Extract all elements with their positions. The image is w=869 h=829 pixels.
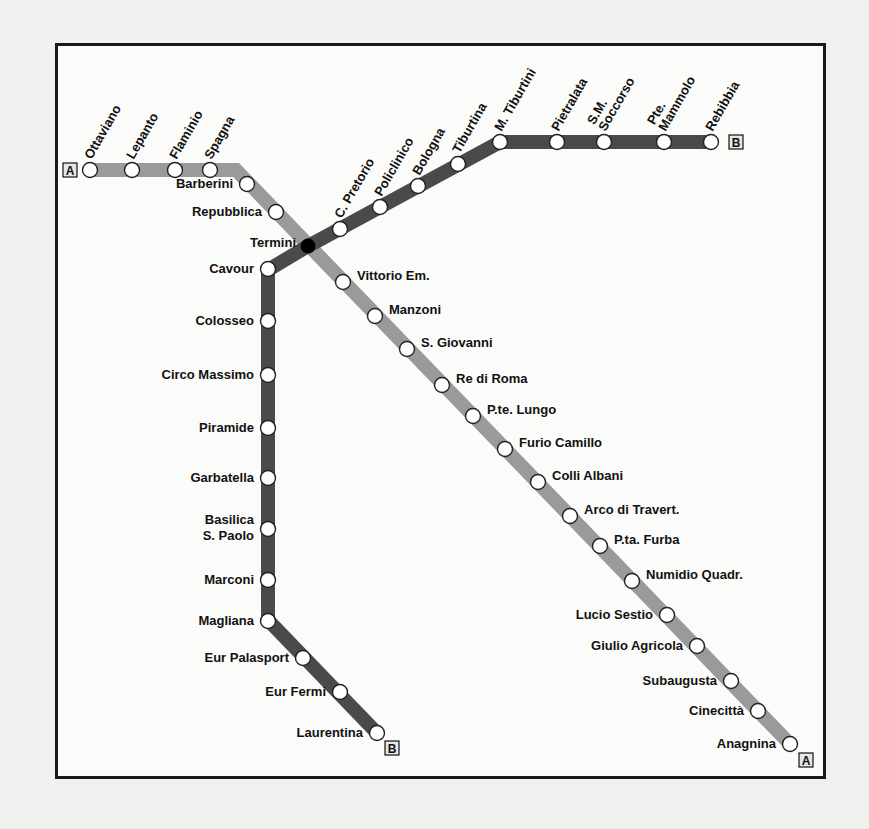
station-re-di-roma[interactable] bbox=[435, 378, 450, 393]
metro-line-a bbox=[90, 170, 790, 744]
station-lepanto[interactable] bbox=[125, 163, 140, 178]
lines-layer bbox=[90, 142, 790, 744]
station-s-giovanni[interactable] bbox=[400, 342, 415, 357]
station-basilica-s-paolo[interactable] bbox=[261, 522, 276, 537]
station-p-te-lungo[interactable] bbox=[466, 409, 481, 424]
station-label-giulio-agricola: Giulio Agricola bbox=[591, 638, 684, 653]
station-marconi[interactable] bbox=[261, 573, 276, 588]
station-label-s-m-soccorso: S.M.Soccorso bbox=[584, 68, 638, 133]
station-p-ta-furba[interactable] bbox=[593, 539, 608, 554]
svg-text:Ottaviano: Ottaviano bbox=[81, 102, 124, 161]
svg-text:B: B bbox=[732, 136, 741, 150]
station-barberini[interactable] bbox=[240, 177, 255, 192]
station-label-colli-albani: Colli Albani bbox=[552, 468, 623, 483]
station-label-laurentina: Laurentina bbox=[297, 725, 364, 740]
station-label-repubblica: Repubblica bbox=[192, 204, 263, 219]
svg-text:A: A bbox=[802, 754, 811, 768]
station-circo-massimo[interactable] bbox=[261, 368, 276, 383]
station-label-cinecitt: Cinecittà bbox=[689, 703, 745, 718]
station-pietralata[interactable] bbox=[550, 135, 565, 150]
svg-text:Pietralata: Pietralata bbox=[548, 75, 591, 134]
station-numidio-quadr[interactable] bbox=[625, 574, 640, 589]
station-label-basilica-s-paolo: Basilica bbox=[205, 512, 255, 527]
station-cinecitt[interactable] bbox=[751, 704, 766, 719]
terminus-badge-b: B bbox=[729, 135, 743, 150]
station-label-s-giovanni: S. Giovanni bbox=[421, 335, 493, 350]
station-subaugusta[interactable] bbox=[724, 674, 739, 689]
station-laurentina[interactable] bbox=[370, 726, 385, 741]
svg-text:Spagna: Spagna bbox=[201, 113, 238, 162]
station-label-vittorio-em: Vittorio Em. bbox=[357, 268, 430, 283]
station-piramide[interactable] bbox=[261, 421, 276, 436]
station-cavour[interactable] bbox=[261, 262, 276, 277]
svg-text:B: B bbox=[388, 742, 397, 756]
station-label-re-di-roma: Re di Roma bbox=[456, 371, 528, 386]
station-repubblica[interactable] bbox=[269, 205, 284, 220]
station-label-p-te-lungo: P.te. Lungo bbox=[487, 402, 556, 417]
station-label-cavour: Cavour bbox=[209, 261, 254, 276]
station-label-garbatella: Garbatella bbox=[190, 470, 254, 485]
svg-text:Flaminio: Flaminio bbox=[166, 108, 206, 162]
station-policlinico[interactable] bbox=[373, 200, 388, 215]
station-eur-palasport[interactable] bbox=[296, 651, 311, 666]
station-furio-camillo[interactable] bbox=[498, 442, 513, 457]
station-manzoni[interactable] bbox=[368, 309, 383, 324]
svg-text:M. Tiburtini: M. Tiburtini bbox=[491, 66, 539, 134]
station-arco-di-travert[interactable] bbox=[563, 509, 578, 524]
station-label-arco-di-travert: Arco di Travert. bbox=[584, 502, 679, 517]
station-c-pretorio[interactable] bbox=[333, 222, 348, 237]
station-ottaviano[interactable] bbox=[83, 163, 98, 178]
station-label-p-ta-furba: P.ta. Furba bbox=[614, 532, 680, 547]
station-label-pte-mammolo: Pte.Mammolo bbox=[644, 67, 699, 134]
station-giulio-agricola[interactable] bbox=[690, 639, 705, 654]
station-vittorio-em[interactable] bbox=[336, 275, 351, 290]
station-label-magliana: Magliana bbox=[198, 613, 254, 628]
terminus-badge-a: A bbox=[799, 753, 813, 768]
station-s-m-soccorso[interactable] bbox=[597, 135, 612, 150]
stations-layer bbox=[83, 135, 798, 752]
station-label-manzoni: Manzoni bbox=[389, 302, 441, 317]
station-label-termini: Termini bbox=[250, 235, 296, 250]
station-label-spagna: Spagna bbox=[201, 113, 238, 162]
station-anagnina[interactable] bbox=[783, 737, 798, 752]
station-garbatella[interactable] bbox=[261, 471, 276, 486]
station-label-numidio-quadr: Numidio Quadr. bbox=[646, 567, 743, 582]
station-pte-mammolo[interactable] bbox=[657, 135, 672, 150]
interchange-station-termini[interactable] bbox=[301, 239, 316, 254]
station-label-m-tiburtini: M. Tiburtini bbox=[491, 66, 539, 134]
station-colli-albani[interactable] bbox=[531, 475, 546, 490]
station-label-circo-massimo: Circo Massimo bbox=[162, 367, 255, 382]
station-label-furio-camillo: Furio Camillo bbox=[519, 435, 602, 450]
station-label-barberini: Barberini bbox=[176, 176, 233, 191]
station-tiburtina[interactable] bbox=[451, 157, 466, 172]
station-magliana[interactable] bbox=[261, 614, 276, 629]
station-label-pietralata: Pietralata bbox=[548, 75, 591, 134]
station-label-lucio-sestio: Lucio Sestio bbox=[576, 607, 653, 622]
station-label-eur-palasport: Eur Palasport bbox=[204, 650, 289, 665]
station-m-tiburtini[interactable] bbox=[493, 135, 508, 150]
station-label-marconi: Marconi bbox=[204, 572, 254, 587]
station-rebibbia[interactable] bbox=[704, 135, 719, 150]
station-label-eur-fermi: Eur Fermi bbox=[265, 684, 326, 699]
svg-text:Rebibbia: Rebibbia bbox=[702, 78, 743, 134]
metro-map: OttavianoLepantoFlaminioSpagnaBarberiniR… bbox=[0, 0, 869, 829]
station-label-lepanto: Lepanto bbox=[123, 110, 161, 161]
station-colosseo[interactable] bbox=[261, 314, 276, 329]
terminus-badge-b: B bbox=[385, 741, 399, 756]
station-lucio-sestio[interactable] bbox=[660, 608, 675, 623]
station-label-flaminio: Flaminio bbox=[166, 108, 206, 162]
station-label-colosseo: Colosseo bbox=[195, 313, 254, 328]
station-bologna[interactable] bbox=[411, 179, 426, 194]
svg-text:Lepanto: Lepanto bbox=[123, 110, 161, 161]
station-label-rebibbia: Rebibbia bbox=[702, 78, 743, 134]
station-eur-fermi[interactable] bbox=[333, 685, 348, 700]
station-label-subaugusta: Subaugusta bbox=[643, 673, 718, 688]
station-label-piramide: Piramide bbox=[199, 420, 254, 435]
terminus-badge-a: A bbox=[63, 163, 77, 178]
svg-text:A: A bbox=[66, 164, 75, 178]
station-label-basilica-s-paolo: S. Paolo bbox=[203, 528, 254, 543]
station-label-ottaviano: Ottaviano bbox=[81, 102, 124, 161]
station-label-anagnina: Anagnina bbox=[717, 736, 777, 751]
